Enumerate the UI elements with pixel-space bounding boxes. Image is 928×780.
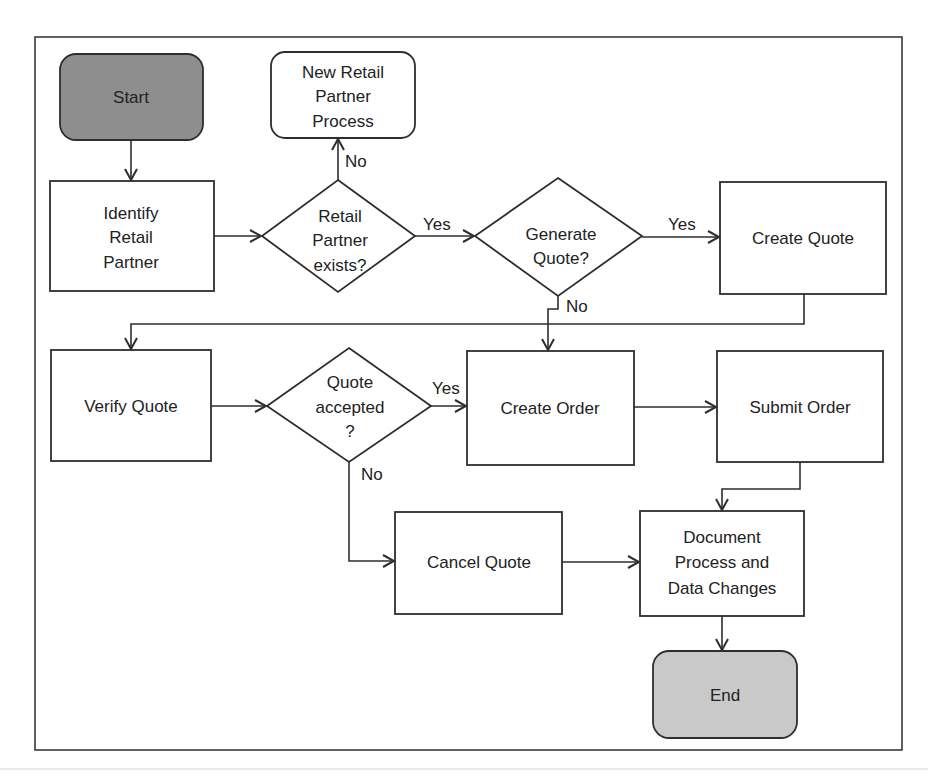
node-identify-line2: Retail [109, 228, 152, 247]
edge-label-accepted-yes: Yes [432, 379, 460, 398]
edge-label-accepted-no: No [361, 465, 383, 484]
decision-accepted-line3: ? [345, 422, 354, 441]
node-create-quote: Create Quote [720, 182, 886, 294]
node-end: End [653, 651, 797, 738]
node-create-quote-label: Create Quote [752, 229, 854, 248]
node-start: Start [60, 54, 203, 140]
decision-accepted-line1: Quote [327, 373, 373, 392]
node-create-order-label: Create Order [500, 399, 600, 418]
decision-quote-accepted: Quote accepted ? [267, 348, 431, 462]
node-identify-line3: Partner [103, 253, 159, 272]
node-verify-quote-label: Verify Quote [84, 397, 178, 416]
edge-submit-to-document [722, 462, 800, 510]
decision-retail-partner-exists: Retail Partner exists? [262, 180, 415, 292]
edge-label-partner-yes: Yes [423, 215, 451, 234]
node-new-partner-line2: Partner [315, 87, 371, 106]
decision-partner-line2: Partner [312, 231, 368, 250]
flowchart-canvas: Start New Retail Partner Process Identif… [0, 0, 928, 780]
node-document-line1: Document [683, 528, 761, 547]
node-new-retail-partner-process: New Retail Partner Process [271, 52, 415, 138]
edge-generate-no [548, 296, 558, 350]
edge-label-generate-yes: Yes [668, 215, 696, 234]
decision-accepted-line2: accepted [316, 398, 385, 417]
node-new-partner-line3: Process [312, 112, 373, 131]
decision-partner-line3: exists? [314, 256, 367, 275]
edge-label-partner-no: No [345, 152, 367, 171]
node-end-label: End [710, 686, 740, 705]
node-submit-order: Submit Order [717, 351, 883, 462]
node-submit-order-label: Submit Order [749, 398, 850, 417]
node-cancel-quote: Cancel Quote [395, 512, 562, 614]
decision-generate-quote: Generate Quote? [475, 178, 642, 296]
edge-label-generate-no: No [566, 297, 588, 316]
node-document-line3: Data Changes [668, 579, 777, 598]
node-start-label: Start [113, 88, 149, 107]
node-new-partner-line1: New Retail [302, 63, 384, 82]
node-create-order: Create Order [467, 351, 634, 465]
node-document-line2: Process and [675, 553, 770, 572]
node-document-changes: Document Process and Data Changes [640, 511, 804, 616]
node-cancel-quote-label: Cancel Quote [427, 553, 531, 572]
decision-partner-line1: Retail [318, 207, 361, 226]
node-identify-retail-partner: Identify Retail Partner [50, 181, 214, 291]
node-identify-line1: Identify [104, 204, 159, 223]
node-verify-quote: Verify Quote [51, 350, 211, 461]
decision-generate-line2: Quote? [533, 249, 589, 268]
decision-generate-line1: Generate [526, 225, 597, 244]
edge-create-quote-to-verify [131, 294, 804, 349]
